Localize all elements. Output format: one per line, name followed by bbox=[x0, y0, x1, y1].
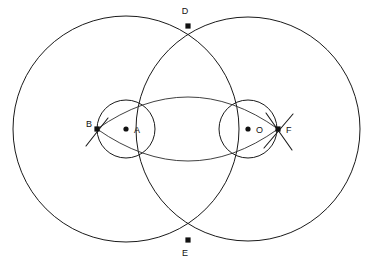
point-label-B: B bbox=[86, 119, 92, 129]
point-marker-A bbox=[123, 126, 128, 131]
point-marker-D bbox=[185, 23, 190, 28]
point-marker-F bbox=[275, 126, 280, 131]
figure-canvas: ABDEFO bbox=[0, 0, 372, 268]
point-marker-O bbox=[245, 126, 250, 131]
point-label-D: D bbox=[182, 6, 189, 16]
point-label-F: F bbox=[286, 125, 292, 135]
point-marker-B bbox=[94, 126, 99, 131]
lens-upper-arc bbox=[97, 97, 278, 129]
lens-lower-arc bbox=[97, 129, 278, 161]
point-label-E: E bbox=[182, 248, 188, 258]
point-marker-E bbox=[185, 237, 190, 242]
geometry-diagram: ABDEFO bbox=[0, 0, 372, 268]
point-label-O: O bbox=[256, 125, 263, 135]
point-label-A: A bbox=[134, 125, 140, 135]
